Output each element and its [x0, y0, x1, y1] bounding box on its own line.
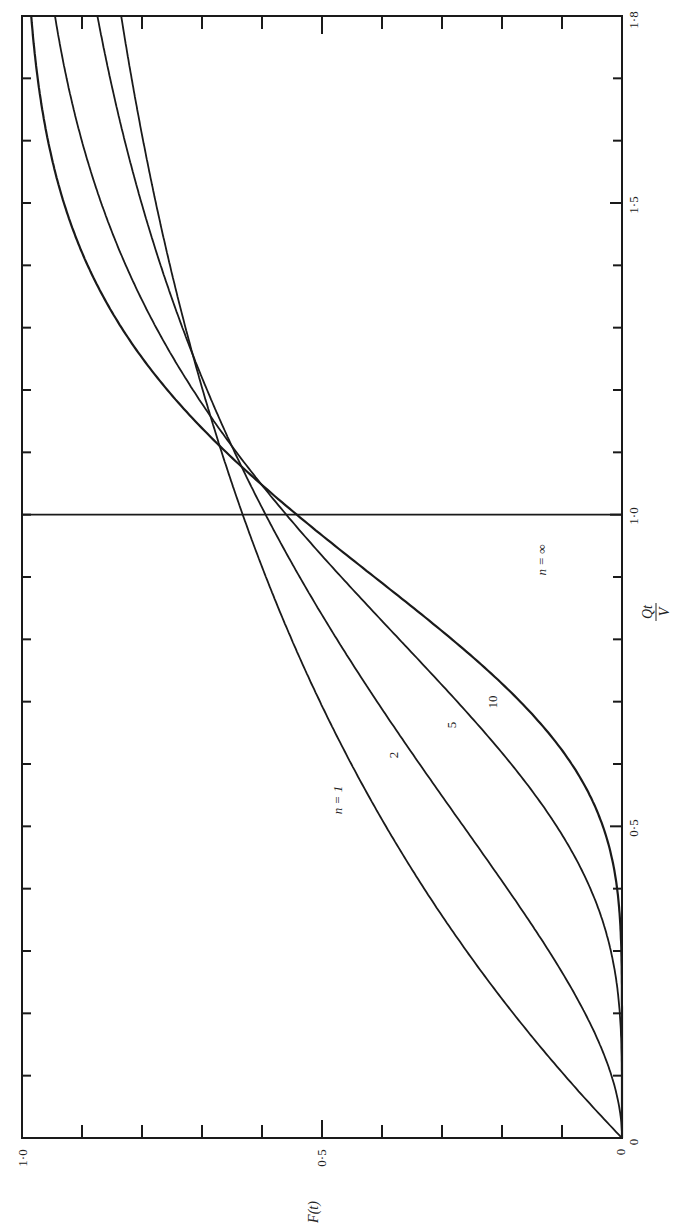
y-axis-title: F(t) [306, 1201, 322, 1224]
curve-label-ninf: n = ∞ [534, 544, 549, 575]
curve-label-n1: n = 1 [330, 786, 345, 814]
x-axis-title-denominator: V [657, 606, 672, 616]
rtd-chart: 0 0·5 1·0 1·5 1·8 Qt V 1·0 0·5 0 F(t) n … [0, 0, 687, 1232]
plot-frame [22, 16, 622, 1138]
x-tick-label-1.5: 1·5 [626, 196, 641, 213]
curve-n2 [97, 16, 622, 1138]
y-tick-label-0: 0 [613, 1149, 628, 1156]
curve-n5 [55, 16, 622, 1138]
curve-label-n10: 10 [485, 696, 500, 709]
x-axis-title: Qt V [640, 603, 672, 621]
curve-n1 [121, 16, 622, 1138]
y-tick-label-1.0: 1·0 [15, 1149, 30, 1166]
x-tick-label-1.0: 1·0 [626, 507, 641, 524]
x-axis-title-numerator: Qt [640, 604, 655, 619]
curve-label-n5: 5 [444, 722, 459, 729]
curve-n10 [31, 16, 622, 1138]
axis-ticks [22, 16, 622, 1138]
x-tick-label-0.5: 0·5 [626, 819, 641, 836]
curves [22, 16, 622, 1138]
y-tick-label-0.5: 0·5 [314, 1149, 329, 1166]
curve-label-n2: 2 [386, 752, 401, 759]
x-tick-label-1.8: 1·8 [626, 11, 641, 28]
x-tick-label-0: 0 [626, 1139, 641, 1146]
